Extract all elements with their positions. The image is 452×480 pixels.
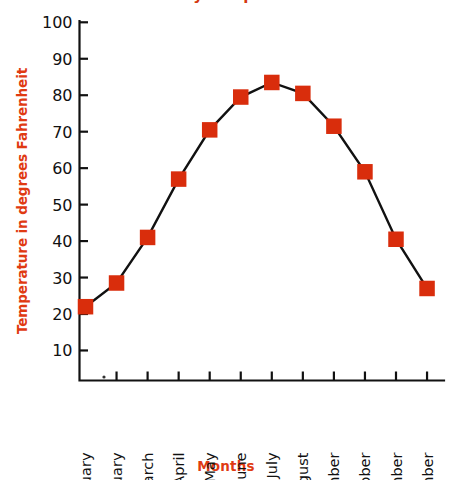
data-point-july: [264, 75, 280, 91]
y-tick-label-70: 70: [52, 123, 72, 142]
temperature-series-line: [86, 82, 428, 306]
y-tick-label-80: 80: [52, 86, 72, 105]
y-tick-label-40: 40: [52, 232, 72, 251]
x-tick-label-september: September: [326, 452, 342, 480]
stray-dot-artifact: [102, 375, 105, 378]
data-point-markers: [78, 75, 435, 315]
data-point-august: [295, 86, 311, 102]
data-point-june: [233, 89, 249, 105]
x-tick-label-december: December: [420, 452, 436, 480]
y-tick-label-100: 100: [42, 13, 73, 32]
data-point-january: [78, 299, 94, 315]
data-point-april: [171, 171, 187, 187]
x-axis-ticks: [117, 372, 428, 381]
chart-container: Monthly Temperature Temperature in degre…: [0, 0, 452, 480]
y-tick-label-90: 90: [52, 50, 72, 69]
x-tick-label-august: August: [295, 452, 311, 480]
data-point-september: [326, 118, 342, 134]
data-point-february: [109, 275, 125, 291]
data-point-december: [419, 281, 435, 297]
y-tick-label-60: 60: [52, 159, 72, 178]
data-point-november: [388, 232, 404, 248]
x-axis-tick-labels: JanuaryFebruaryMarchAprilMayJuneJulyAugu…: [78, 452, 436, 480]
y-tick-label-20: 20: [52, 305, 72, 324]
y-tick-label-30: 30: [52, 269, 72, 288]
data-point-may: [202, 122, 218, 138]
x-tick-label-april: April: [171, 453, 187, 480]
axis-lines: [80, 21, 445, 381]
x-tick-label-may: May: [202, 452, 218, 480]
y-tick-label-50: 50: [52, 196, 72, 215]
x-tick-label-october: October: [357, 452, 373, 480]
line-chart-plot: 100908070605040302010 JanuaryFebruaryMar…: [0, 0, 452, 480]
data-point-march: [140, 230, 156, 246]
x-tick-label-june: June: [233, 452, 249, 480]
x-tick-label-november: November: [389, 452, 405, 480]
x-tick-label-march: March: [140, 453, 156, 480]
x-tick-label-february: February: [109, 452, 125, 480]
x-tick-label-july: July: [264, 452, 280, 479]
y-axis-tick-labels: 100908070605040302010: [42, 13, 73, 360]
data-point-october: [357, 164, 373, 180]
x-tick-label-january: January: [78, 452, 94, 480]
y-tick-label-10: 10: [52, 341, 72, 360]
